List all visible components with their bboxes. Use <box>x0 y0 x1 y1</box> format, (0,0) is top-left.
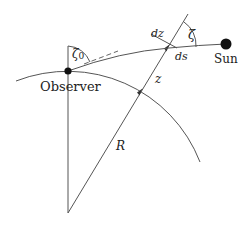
refraction-diagram: Observer Sun ζ0 ζ dz ds z R <box>0 0 252 229</box>
sun-label: Sun <box>214 52 238 66</box>
observer-label: Observer <box>40 79 102 94</box>
z-label: z <box>154 72 162 86</box>
light-ray <box>68 44 226 71</box>
sun-dot <box>221 39 232 50</box>
zeta-label: ζ <box>188 27 196 42</box>
dz-label: dz <box>151 27 164 40</box>
zeta0-label: ζ0 <box>72 47 85 61</box>
observer-dot <box>64 67 71 74</box>
ds-label: ds <box>175 50 188 63</box>
radius-label: R <box>115 139 125 153</box>
